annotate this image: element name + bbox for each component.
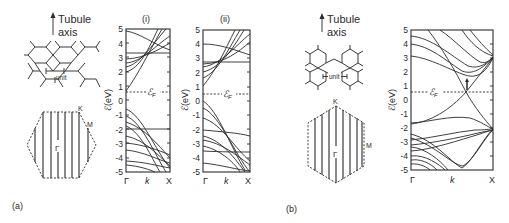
brillouin-zone-a: Γ K M (27, 105, 96, 178)
svg-text:-3: -3 (400, 137, 408, 147)
svg-text:-5: -5 (400, 165, 408, 175)
tubule-label-b-line2: axis (327, 26, 347, 38)
brillouin-zone-b: Γ K M (308, 98, 372, 183)
band-plot-a-i: (i) 5 4 3 2 1 0 -1 -2 -3 -4 -5 (103, 14, 172, 186)
tubule-label-b-line1: Tubule (327, 13, 360, 25)
x-tick-gamma-b: Γ (410, 175, 415, 185)
svg-text:3: 3 (195, 53, 200, 63)
svg-text:-3: -3 (115, 139, 123, 149)
y-axis-label-ii: ℰ(eV) (180, 89, 190, 111)
x-tick-k-i: k (145, 176, 150, 186)
svg-text:1: 1 (195, 82, 200, 92)
band-plot-a-ii: (ii) 5 4 3 2 1 0 -1 -2 -3 -4 -5 (180, 14, 251, 186)
m-label-a: M (87, 121, 93, 128)
svg-text:-5: -5 (115, 167, 123, 177)
svg-text:4: 4 (403, 39, 408, 49)
lattice-b: Tubule axis unit (305, 13, 363, 90)
figure: Tubule axis unit (0, 0, 509, 223)
band-plot-b: 5 4 3 2 1 0 -1 -2 -3 -4 -5 (387, 25, 495, 185)
m-label-b: M (366, 142, 372, 149)
k-label-b: K (333, 98, 338, 105)
svg-text:-3: -3 (192, 139, 200, 149)
panel-label-a: (a) (12, 201, 23, 211)
y-tick-labels-b: 5 4 3 2 1 0 -1 -2 -3 -4 -5 (400, 25, 408, 175)
svg-text:2: 2 (118, 67, 123, 77)
x-tick-gamma-i: Γ (124, 176, 129, 186)
x-tick-k-ii: k (224, 176, 229, 186)
svg-text:-5: -5 (192, 167, 200, 177)
svg-text:5: 5 (403, 25, 408, 35)
svg-text:0: 0 (195, 96, 200, 106)
panel-label-b: (b) (286, 204, 297, 214)
y-tick-labels-i: 5 4 3 2 1 0 -1 -2 -3 -4 -5 (115, 24, 123, 177)
y-axis-label-b: ℰ(eV) (387, 89, 397, 111)
svg-text:5: 5 (195, 25, 200, 35)
x-tick-x-b: X (489, 175, 495, 185)
svg-text:1: 1 (118, 82, 123, 92)
svg-text:-1: -1 (400, 109, 408, 119)
svg-text:-2: -2 (115, 125, 123, 135)
svg-text:-1: -1 (192, 110, 200, 120)
svg-text:3: 3 (118, 53, 123, 63)
svg-text:-4: -4 (400, 151, 408, 161)
sub-label-ii: (ii) (220, 14, 230, 24)
x-tick-x-ii: X (245, 176, 251, 186)
sub-label-i: (i) (142, 14, 150, 24)
svg-text:5: 5 (118, 24, 123, 34)
svg-text:-2: -2 (192, 125, 200, 135)
x-tick-x-i: X (166, 176, 172, 186)
svg-text:2: 2 (195, 68, 200, 78)
svg-text:-4: -4 (192, 153, 200, 163)
x-tick-gamma-ii: Γ (203, 176, 208, 186)
svg-text:-1: -1 (115, 110, 123, 120)
gamma-label-a: Γ (55, 144, 60, 153)
y-axis-label-i: ℰ(eV) (103, 89, 113, 111)
y-tick-labels-ii: 5 4 3 2 1 0 -1 -2 -3 -4 -5 (192, 25, 200, 177)
svg-text:0: 0 (118, 96, 123, 106)
svg-text:4: 4 (118, 39, 123, 49)
svg-text:3: 3 (403, 53, 408, 63)
svg-text:0: 0 (403, 95, 408, 105)
unit-label-b: unit (329, 73, 340, 80)
tubule-label-line1: Tubule (58, 13, 91, 25)
gamma-label-b: Γ (333, 150, 338, 159)
x-tick-k-b: k (450, 175, 455, 185)
lattice-a: Tubule axis unit (24, 12, 100, 87)
svg-text:1: 1 (403, 81, 408, 91)
tubule-label-line2: axis (58, 26, 78, 38)
svg-text:-4: -4 (115, 153, 123, 163)
svg-text:2: 2 (403, 67, 408, 77)
svg-text:-2: -2 (400, 123, 408, 133)
k-label-a: K (78, 105, 83, 112)
unit-label: unit (56, 74, 67, 81)
svg-text:4: 4 (195, 39, 200, 49)
